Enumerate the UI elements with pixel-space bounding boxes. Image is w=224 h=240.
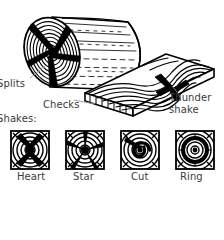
label-thunder-shake: Thundershake bbox=[169, 92, 221, 116]
label-shake-ring: Ring bbox=[180, 171, 203, 182]
label-splits: Splits bbox=[0, 78, 25, 89]
label-checks: Checks bbox=[43, 99, 80, 110]
label-shake-star: Star bbox=[73, 171, 94, 182]
shake-diagram-heart bbox=[9, 129, 51, 171]
label-thunder-shake-line1: Thunder bbox=[169, 92, 211, 103]
shake-diagram-ring bbox=[175, 130, 215, 170]
shake-diagram-cut bbox=[120, 130, 160, 170]
shake-diagram-star bbox=[64, 129, 106, 171]
label-shake-cut: Cut bbox=[131, 171, 149, 182]
label-shake-heart: Heart bbox=[17, 171, 45, 182]
label-thunder-shake-line2: shake bbox=[169, 104, 199, 115]
label-shakes-heading: Shakes: bbox=[0, 113, 37, 124]
